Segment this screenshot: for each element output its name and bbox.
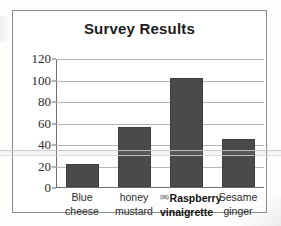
y-axis-tick-mark xyxy=(52,80,56,81)
y-axis-tick-label: 60 xyxy=(38,116,51,132)
x-axis-labels: Bluecheesehoneymustard(96)Raspberryvinai… xyxy=(56,191,264,225)
bar xyxy=(170,78,203,187)
chart-frame: Survey Results 020406080100120 Bluechees… xyxy=(12,10,267,213)
x-axis-label-line2: cheese xyxy=(56,205,108,219)
chart-title: Survey Results xyxy=(13,20,266,37)
y-axis-tick-mark xyxy=(52,188,56,189)
y-axis-tick-label: 80 xyxy=(38,94,51,110)
x-axis-label: honeymustard xyxy=(108,191,160,218)
y-axis-tick-label: 0 xyxy=(45,180,52,196)
y-axis-tick-mark xyxy=(52,123,56,124)
y-axis-tick-mark xyxy=(52,102,56,103)
y-axis-tick-mark xyxy=(52,166,56,167)
bar xyxy=(222,139,255,187)
scan-smudge-left xyxy=(0,16,10,42)
y-axis-tick-mark xyxy=(52,145,56,146)
bar xyxy=(66,164,99,187)
gridline xyxy=(56,81,264,82)
x-axis-label-line2: vinaigrette xyxy=(160,206,212,220)
gridline xyxy=(56,102,264,103)
y-axis-tick-label: 40 xyxy=(38,137,51,153)
y-axis-tick-label: 20 xyxy=(38,159,51,175)
x-axis-label: (96)Raspberryvinaigrette xyxy=(160,191,212,219)
y-axis-tick-label: 100 xyxy=(32,73,52,89)
gridline xyxy=(56,124,264,125)
gridline xyxy=(56,59,264,60)
scan-smudge-corner xyxy=(235,196,281,226)
x-axis-label-line2: mustard xyxy=(108,205,160,219)
y-axis-tick-label: 120 xyxy=(32,51,52,67)
plot-area: 020406080100120 xyxy=(56,59,264,188)
y-axis-tick-mark xyxy=(52,59,56,60)
bar xyxy=(118,127,151,187)
x-axis-label: Bluecheese xyxy=(56,191,108,218)
scanned-page: Survey Results 020406080100120 Bluechees… xyxy=(0,0,281,226)
x-axis-line xyxy=(56,187,264,188)
footnote-marker-icon: (96) xyxy=(160,194,169,200)
